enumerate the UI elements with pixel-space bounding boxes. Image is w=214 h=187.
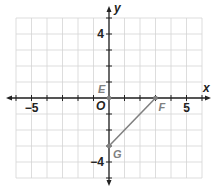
coordinate-plane: −554−4 x y O EFG <box>0 0 214 187</box>
point-G <box>107 144 112 149</box>
y-tick-label: −4 <box>90 155 104 169</box>
point-label-E: E <box>98 83 106 95</box>
x-tick-label: 5 <box>183 101 190 115</box>
segment-FG <box>109 98 156 146</box>
origin-label: O <box>96 99 106 113</box>
point-label-F: F <box>159 101 166 113</box>
y-axis-label: y <box>113 1 122 15</box>
x-axis-label: x <box>202 81 211 95</box>
point-label-G: G <box>113 148 122 160</box>
point-E <box>107 96 112 101</box>
y-tick-label: 4 <box>97 27 104 41</box>
y-axis-bottom-arrow-icon <box>107 180 112 186</box>
x-tick-label: −5 <box>25 101 39 115</box>
x-axis-left-arrow-icon <box>6 96 12 101</box>
y-axis-top-arrow-icon <box>107 6 112 12</box>
point-F <box>153 96 158 101</box>
x-axis-right-arrow-icon <box>205 96 211 101</box>
